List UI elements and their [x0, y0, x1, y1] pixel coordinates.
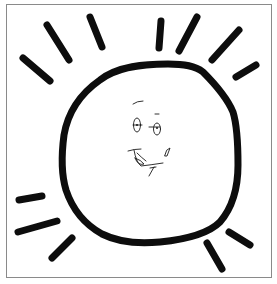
drawing-canvas — [0, 0, 277, 284]
left-pupil-icon — [136, 124, 138, 126]
ray-top-right-3 — [236, 65, 256, 77]
ray-top-left-1 — [23, 58, 50, 81]
right-pupil-icon — [156, 127, 158, 129]
ray-top-left-2 — [47, 25, 69, 60]
ray-top-left-3 — [90, 17, 102, 47]
ray-top-right-1 — [179, 17, 197, 51]
ray-bottom-right-1 — [207, 243, 222, 269]
sun-drawing — [0, 0, 277, 284]
ray-bottom-left-2 — [18, 221, 57, 232]
ray-top-1 — [159, 21, 161, 48]
sun-body-outline — [62, 64, 238, 243]
ray-bottom-right-2 — [229, 232, 250, 245]
ray-bottom-left-3 — [52, 238, 72, 258]
ray-top-right-2 — [212, 30, 239, 60]
ray-bottom-left-1 — [19, 196, 42, 200]
